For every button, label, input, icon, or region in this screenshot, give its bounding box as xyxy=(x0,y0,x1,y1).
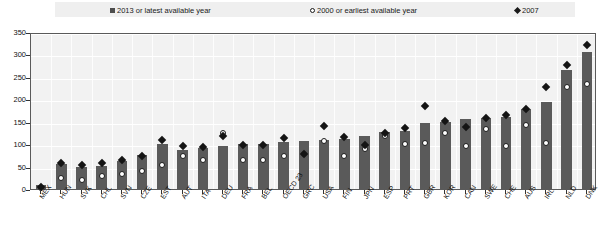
x-axis: MEXHUNSVKCHLSVNCZEESTAUTITADEUFRABELOECD… xyxy=(30,190,596,228)
gridline-vertical xyxy=(132,34,133,189)
gridline-vertical xyxy=(375,34,376,189)
bar xyxy=(319,140,330,189)
gridline-vertical xyxy=(92,34,93,189)
filled-diamond-icon xyxy=(514,6,521,13)
data-point-circle xyxy=(240,157,246,163)
bar xyxy=(278,142,289,189)
bar xyxy=(238,144,249,189)
legend-item-1[interactable]: 2000 or earliest available year xyxy=(310,2,417,17)
bar xyxy=(218,146,229,189)
data-point-circle xyxy=(564,84,570,90)
data-point-circle xyxy=(58,175,64,181)
gridline-vertical xyxy=(152,34,153,189)
data-point-diamond xyxy=(421,102,429,110)
legend-label: 2007 xyxy=(522,6,539,15)
gridline-vertical xyxy=(456,34,457,189)
y-tick-label: 0 xyxy=(0,186,26,194)
chart-legend: 2013 or latest available year2000 or ear… xyxy=(55,2,575,17)
y-tick-label: 350 xyxy=(0,29,26,37)
gridline-vertical xyxy=(435,34,436,189)
bar xyxy=(258,144,269,189)
gridline-vertical xyxy=(536,34,537,189)
y-tick-label: 250 xyxy=(0,74,26,82)
y-tick-label: 50 xyxy=(0,164,26,172)
chart-root: 2013 or latest available year2000 or ear… xyxy=(0,0,605,228)
gridline-vertical xyxy=(233,34,234,189)
gridline-horizontal xyxy=(31,79,595,80)
data-point-circle xyxy=(281,153,287,159)
gridline-horizontal xyxy=(31,56,595,57)
gridline-horizontal xyxy=(31,34,595,35)
open-circle-icon xyxy=(310,8,315,13)
y-tick-label: 100 xyxy=(0,141,26,149)
legend-label: 2013 or latest available year xyxy=(117,6,211,15)
data-point-circle xyxy=(523,122,529,128)
gridline-vertical xyxy=(476,34,477,189)
data-point-circle xyxy=(321,138,327,144)
bar xyxy=(420,123,431,189)
data-point-circle xyxy=(119,171,125,177)
data-point-circle xyxy=(402,141,408,147)
gridline-vertical xyxy=(253,34,254,189)
y-tick-label: 200 xyxy=(0,96,26,104)
data-point-diamond xyxy=(219,132,227,140)
bar xyxy=(501,117,512,189)
gridline-horizontal xyxy=(31,101,595,102)
bar xyxy=(339,139,350,189)
legend-label: 2000 or earliest available year xyxy=(317,6,417,15)
data-point-circle xyxy=(99,173,105,179)
data-point-circle xyxy=(79,177,85,183)
bar xyxy=(198,148,209,189)
gridline-vertical xyxy=(112,34,113,189)
bar xyxy=(582,52,593,189)
bar xyxy=(299,141,310,189)
gridline-vertical xyxy=(496,34,497,189)
gridline-vertical xyxy=(71,34,72,189)
gridline-vertical xyxy=(213,34,214,189)
data-point-circle xyxy=(463,143,469,149)
gridline-vertical xyxy=(354,34,355,189)
gridline-vertical xyxy=(274,34,275,189)
data-point-diamond xyxy=(542,83,550,91)
gridline-vertical xyxy=(557,34,558,189)
y-tick-label: 150 xyxy=(0,119,26,127)
data-point-circle xyxy=(483,126,489,132)
gridline-vertical xyxy=(314,34,315,189)
plot-area xyxy=(30,33,596,190)
gridline-vertical xyxy=(334,34,335,189)
bar xyxy=(379,132,390,189)
y-tick-label: 300 xyxy=(0,51,26,59)
data-point-diamond xyxy=(562,61,570,69)
gridline-vertical xyxy=(173,34,174,189)
gridline-vertical xyxy=(294,34,295,189)
gridline-vertical xyxy=(577,34,578,189)
legend-item-0[interactable]: 2013 or latest available year xyxy=(110,2,211,17)
legend-item-2[interactable]: 2007 xyxy=(515,2,539,17)
gridline-vertical xyxy=(415,34,416,189)
gridline-vertical xyxy=(395,34,396,189)
bar xyxy=(400,131,411,189)
gridline-vertical xyxy=(516,34,517,189)
square-icon xyxy=(110,8,115,13)
data-point-diamond xyxy=(583,41,591,49)
data-point-circle xyxy=(422,140,428,146)
gridline-vertical xyxy=(51,34,52,189)
data-point-circle xyxy=(139,168,145,174)
gridline-vertical xyxy=(193,34,194,189)
